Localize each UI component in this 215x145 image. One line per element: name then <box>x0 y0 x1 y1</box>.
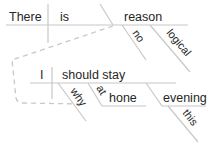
modifier-word-why: why <box>68 84 90 108</box>
modifier-word-logical: logical <box>164 27 193 59</box>
adverbial-line-evening <box>146 83 162 106</box>
subject-word: There <box>9 10 42 24</box>
sentence-diagram: There is reason no logical I should stay… <box>0 0 215 145</box>
sub-verb-word: should stay <box>62 68 126 82</box>
subordinate-clause: I should stay why at hone evening this <box>30 67 207 142</box>
object-word: reason <box>124 10 162 24</box>
preposition-word-at: at <box>94 83 109 97</box>
verb-object-divider <box>100 4 113 25</box>
adverbial-noun-word-evening: evening <box>163 91 207 105</box>
sub-subject-word: I <box>40 68 43 82</box>
main-clause: There is reason no logical <box>6 4 194 72</box>
verb-word: is <box>60 10 69 24</box>
prep-object-word-hone: hone <box>109 91 137 105</box>
